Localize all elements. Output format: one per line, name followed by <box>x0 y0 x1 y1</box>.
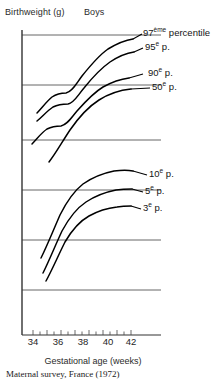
chart-plot-area <box>0 22 218 352</box>
x-tick-label-36: 36 <box>53 336 64 347</box>
curve-label-p97: 97ème percentile <box>143 28 210 38</box>
x-tick-label-38: 38 <box>78 336 89 347</box>
chart-group-label: Boys <box>84 7 104 17</box>
percentile-curves <box>32 39 134 281</box>
leader-p3 <box>131 206 141 209</box>
leader-p50 <box>131 88 150 89</box>
curve-label-p5: 5e p. <box>145 186 164 196</box>
x-axis-title: Gestational age (weeks) <box>44 356 141 366</box>
leader-p5 <box>132 189 143 192</box>
figure-caption: Maternal survey, France (1972) <box>6 369 119 379</box>
x-tick-label-42: 42 <box>126 336 137 347</box>
curve-label-p50: 50e p. <box>152 82 177 92</box>
curve-p90 <box>32 78 129 144</box>
leader-p10 <box>133 171 147 175</box>
label-leader-lines <box>129 34 150 209</box>
curve-label-p3: 3e p. <box>143 203 162 213</box>
y-axis-title: Birthweight (g) <box>5 7 65 17</box>
leader-p95 <box>134 48 143 52</box>
x-tick-label-40: 40 <box>103 336 114 347</box>
curve-label-p95: 95e p. <box>145 42 170 52</box>
curve-label-p10: 10e p. <box>149 169 174 179</box>
gridlines <box>22 35 161 290</box>
birthweight-percentile-figure: Birthweight (g) Boys <box>0 0 218 381</box>
x-tick-marks <box>33 330 131 335</box>
leader-p90 <box>129 74 143 78</box>
curve-label-p90: 90e p. <box>148 68 173 78</box>
curve-p10 <box>41 170 133 258</box>
x-tick-label-34: 34 <box>28 336 39 347</box>
